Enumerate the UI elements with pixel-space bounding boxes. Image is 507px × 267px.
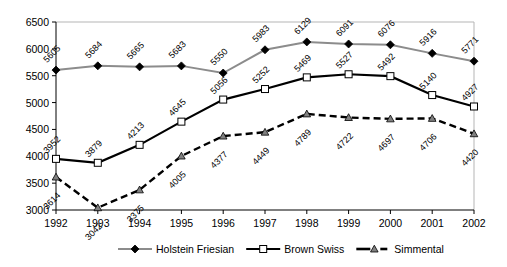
data-point-marker (260, 246, 267, 253)
y-axis-tick-label: 4500 (26, 123, 50, 135)
x-axis-tick-label: 2001 (421, 217, 445, 229)
data-point-label: 4697 (376, 132, 397, 153)
data-point-label: 5684 (83, 39, 104, 60)
data-point-label: 4645 (167, 97, 188, 118)
y-axis-tick-label: 5000 (26, 97, 50, 109)
data-point-marker (303, 38, 311, 46)
y-axis-tick-label: 3500 (26, 177, 50, 189)
x-axis-tick-label: 1996 (212, 217, 236, 229)
data-point-marker (371, 245, 379, 252)
x-axis-tick-label: 1999 (337, 217, 361, 229)
legend-label-2: Brown Swiss (284, 243, 344, 255)
data-point-marker (428, 49, 436, 57)
data-point-label: 5492 (376, 51, 397, 72)
x-axis-tick-label: 1997 (253, 217, 277, 229)
data-point-label: 5527 (334, 50, 355, 71)
data-point-marker (94, 159, 101, 166)
data-point-label: 6129 (292, 15, 313, 36)
data-point-marker (386, 41, 394, 49)
data-point-marker (94, 62, 102, 70)
data-point-marker (345, 71, 352, 78)
data-point-marker (471, 103, 478, 110)
data-point-marker (131, 245, 139, 253)
legend-label-3: Simmental (394, 243, 444, 255)
data-point-marker (178, 118, 185, 125)
data-point-label: 5771 (459, 34, 480, 55)
data-point-marker (178, 152, 186, 159)
data-point-marker (220, 96, 227, 103)
data-point-label: 6076 (376, 18, 397, 39)
data-point-label: 3614 (41, 190, 62, 211)
y-axis-tick-label: 5500 (26, 70, 50, 82)
series-layer (52, 38, 478, 211)
data-point-label: 4005 (167, 169, 188, 190)
data-point-label: 5916 (417, 27, 438, 48)
data-point-label: 3952 (41, 134, 62, 155)
data-point-label: 4722 (334, 131, 355, 152)
data-point-marker (303, 74, 310, 81)
data-point-label: 4420 (459, 147, 480, 168)
data-point-marker (136, 63, 144, 71)
data-point-marker (262, 86, 269, 93)
line-chart: 30003500400045005000550060006500 1992199… (0, 0, 507, 267)
data-point-marker (345, 40, 353, 48)
data-point-label: 3879 (83, 138, 104, 159)
data-point-marker (387, 73, 394, 80)
data-point-label: 4927 (459, 82, 480, 103)
data-point-marker (177, 62, 185, 70)
x-axis-tick-label: 1995 (170, 217, 194, 229)
data-point-marker (53, 155, 60, 162)
chart-legend: Holstein FriesianBrown SwissSimmental (118, 243, 444, 255)
data-point-label: 5469 (292, 53, 313, 74)
data-point-label: 4449 (250, 145, 271, 166)
data-point-label: 5550 (208, 46, 229, 67)
legend-label-1: Holstein Friesian (156, 243, 234, 255)
data-point-label: 5252 (250, 64, 271, 85)
x-axis-tick-label: 1998 (295, 217, 319, 229)
x-axis-tick-label: 1992 (44, 217, 68, 229)
data-point-label: 6091 (334, 17, 355, 38)
x-axis-tick-label: 2000 (379, 217, 403, 229)
x-axis-tick-label: 2002 (462, 217, 486, 229)
x-axis: 1992199319941995199619971998199920002001… (44, 210, 486, 229)
data-point-label: 4377 (208, 149, 229, 170)
chart-canvas: 30003500400045005000550060006500 1992199… (0, 0, 507, 267)
data-point-label: 4213 (125, 120, 146, 141)
data-point-label: 5056 (208, 75, 229, 96)
data-point-marker (261, 46, 269, 54)
data-point-label: 4789 (292, 127, 313, 148)
data-point-marker (429, 92, 436, 99)
data-point-marker (52, 66, 60, 74)
data-point-label: 5140 (417, 70, 438, 91)
data-point-label: 5683 (167, 39, 188, 60)
data-point-label: 5665 (125, 40, 146, 61)
data-point-marker (136, 141, 143, 148)
data-point-label: 5983 (250, 23, 271, 44)
data-point-marker (52, 173, 60, 180)
y-axis-tick-label: 6500 (26, 16, 50, 28)
data-point-label: 4706 (417, 132, 438, 153)
data-point-marker (470, 57, 478, 65)
